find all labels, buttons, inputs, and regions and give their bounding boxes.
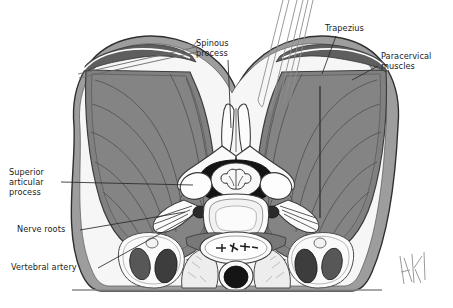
- left-vagus-nerve: [146, 238, 158, 248]
- label-spinous-process: Spinous process: [196, 38, 229, 58]
- label-vertebral-artery: Vertebral artery: [11, 262, 77, 272]
- anatomical-figure: Superior articular process Nerve roots V…: [0, 0, 453, 308]
- esophageal-lumen: [224, 266, 248, 288]
- label-nerve-roots: Nerve roots: [17, 224, 65, 234]
- label-paracervical-muscles: Paracervical muscles: [381, 51, 431, 71]
- label-superior-articular-process: Superior articular process: [9, 167, 44, 198]
- label-trapezius: Trapezius: [325, 23, 364, 33]
- right-vagus-nerve: [314, 238, 326, 248]
- artist-signature: [400, 252, 425, 284]
